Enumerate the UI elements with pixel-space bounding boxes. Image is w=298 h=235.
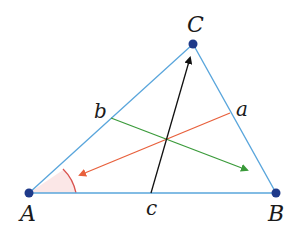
vertex-a-dot (25, 189, 34, 198)
label-point-a: a (236, 97, 248, 121)
label-vertex-b: B (267, 201, 284, 226)
vertex-b-dot (272, 189, 281, 198)
label-point-b: b (94, 99, 107, 123)
arrow-from-b (111, 118, 247, 170)
vertex-c-dot (189, 40, 198, 49)
angle-a-fill (29, 170, 76, 193)
triangle-diagram: A B C a b c (0, 0, 298, 235)
label-vertex-c: C (187, 12, 204, 37)
label-point-c: c (146, 196, 157, 220)
arrow-from-c (151, 58, 190, 193)
label-vertex-a: A (18, 201, 36, 226)
